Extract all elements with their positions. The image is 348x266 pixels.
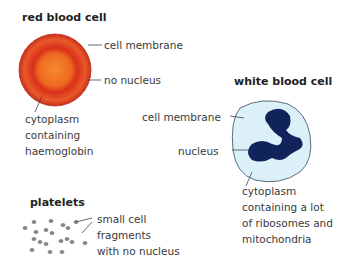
platelets-title: platelets: [30, 196, 85, 209]
wbc-cytoplasm-label-1: cytoplasm: [242, 184, 296, 198]
rbc-cytoplasm-label-3: haemoglobin: [25, 144, 93, 158]
wbc-cytoplasm-label-2: containing a lot: [242, 200, 324, 214]
wbc-cytoplasm-label-3: of ribosomes and: [242, 216, 333, 230]
white-blood-cell-icon: [232, 101, 311, 182]
rbc-membrane-label: cell membrane: [104, 38, 183, 52]
platelets-label-1: small cell: [97, 212, 146, 226]
wbc-membrane-label: cell membrane: [142, 110, 221, 124]
rbc-nucleus-label: no nucleus: [104, 73, 161, 87]
wbc-nucleus-label: nucleus: [178, 144, 219, 158]
rbc-cytoplasm-label-1: cytoplasm: [25, 112, 79, 126]
platelets-label-2: fragments: [97, 228, 151, 242]
wbc-cytoplasm-label-4: mitochondria: [242, 232, 312, 246]
white-blood-cell-title: white blood cell: [234, 75, 332, 88]
platelets-label-3: with no nucleus: [97, 244, 180, 258]
red-blood-cell-icon: [19, 34, 91, 106]
platelets-icon: [23, 219, 87, 253]
red-blood-cell-title: red blood cell: [22, 11, 107, 24]
rbc-cytoplasm-label-2: containing: [25, 128, 80, 142]
